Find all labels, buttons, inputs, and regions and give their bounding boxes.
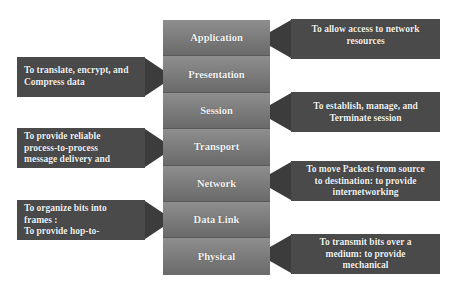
- callout-line: To transmit bits over a: [291, 237, 440, 249]
- layer-label: Transport: [194, 141, 239, 152]
- callout-line: To establish, manage, and: [291, 101, 440, 113]
- callout-line: To organize bits into: [24, 203, 146, 215]
- layer-transport: Transport: [163, 129, 270, 165]
- callout-text: To move Packets from source to destinati…: [291, 164, 440, 199]
- layer-label: Presentation: [188, 69, 244, 80]
- callout-line: To provide hop-to-: [24, 226, 146, 238]
- layer-data-link: Data Link: [163, 202, 270, 238]
- callout-line: Terminate session: [291, 113, 440, 125]
- callout-line: To move Packets from source: [291, 164, 440, 176]
- callout-line: message delivery and: [24, 154, 146, 166]
- callout-line: To translate, encrypt, and: [24, 65, 146, 77]
- callout-text: To establish, manage, and Terminate sess…: [291, 101, 440, 124]
- callout-text: To organize bits into frames : To provid…: [24, 203, 146, 238]
- layer-label: Session: [200, 105, 233, 116]
- callout-text: To transmit bits over a medium: to provi…: [291, 237, 440, 272]
- callout-line: mechanical: [291, 260, 440, 272]
- callout-line: internetworking: [291, 187, 440, 199]
- callout-line: To allow access to network: [291, 24, 440, 36]
- callout-text: To allow access to network resources: [291, 24, 440, 47]
- callout-text: To provide reliable process-to-process m…: [24, 131, 146, 166]
- callout-line: resources: [291, 36, 440, 48]
- layer-label: Data Link: [194, 214, 240, 225]
- layer-label: Application: [190, 32, 243, 43]
- osi-layer-stack: Application Presentation Session Transpo…: [163, 20, 270, 275]
- callout-text: To translate, encrypt, and Compress data: [24, 65, 146, 88]
- layer-network: Network: [163, 166, 270, 202]
- layer-label: Network: [197, 178, 236, 189]
- callout-line: To provide reliable: [24, 131, 146, 143]
- callout-line: Compress data: [24, 77, 146, 89]
- layer-application: Application: [163, 20, 270, 56]
- layer-presentation: Presentation: [163, 56, 270, 92]
- callout-line: process-to-process: [24, 143, 146, 155]
- layer-session: Session: [163, 93, 270, 129]
- callout-line: medium: to provide: [291, 249, 440, 261]
- layer-physical: Physical: [163, 238, 270, 275]
- callout-line: frames :: [24, 215, 146, 227]
- layer-label: Physical: [198, 251, 235, 262]
- callout-line: to destination: to provide: [291, 176, 440, 188]
